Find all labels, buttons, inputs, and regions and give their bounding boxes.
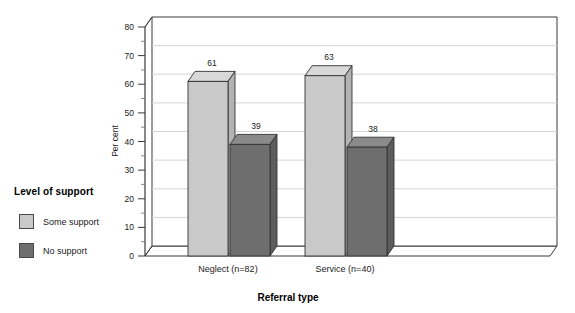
bar-value-label-service-none: 38 [368, 124, 378, 134]
y-tick-label-60: 60 [125, 79, 135, 89]
plot-top-depth-edge [145, 17, 152, 27]
y-tick-label-30: 30 [125, 165, 135, 175]
bar-top-face [347, 137, 394, 147]
bar-front-face [188, 81, 228, 256]
bar-top-face [188, 71, 235, 81]
bar-side-face [387, 137, 394, 256]
bar-top-face [305, 66, 352, 76]
y-tick-labels: 80 70 60 50 40 30 20 10 0 [125, 22, 135, 261]
y-tick-label-70: 70 [125, 51, 135, 61]
y-axis-title: Per cent [110, 125, 120, 157]
bar-top-face [230, 134, 277, 144]
legend-item-some-support[interactable]: Some support [19, 214, 99, 229]
bar-service-no-support[interactable] [347, 137, 394, 256]
bar-front-face [230, 144, 270, 256]
bar-value-label-neglect-some: 61 [207, 58, 217, 68]
x-axis-title: Referral type [257, 292, 319, 303]
y-tick-label-0: 0 [129, 251, 134, 261]
legend-label-some-support: Some support [43, 217, 99, 227]
bar-service-some-support[interactable] [305, 66, 352, 256]
y-axis [138, 27, 145, 256]
x-tick-label-service: Service (n=40) [316, 264, 375, 274]
legend-title: Level of support [14, 186, 93, 197]
bar-front-face [305, 76, 345, 256]
x-tick-label-neglect: Neglect (n=82) [198, 264, 257, 274]
legend-swatch-some-support [19, 214, 34, 229]
chart-canvas: 80 70 60 50 40 30 20 10 0 Per cent 61 [0, 0, 575, 313]
bar-value-label-neglect-none: 39 [251, 121, 261, 131]
bar-side-face [270, 134, 277, 256]
bar-chart-figure: 80 70 60 50 40 30 20 10 0 Per cent 61 [0, 0, 575, 313]
y-tick-label-80: 80 [125, 22, 135, 32]
y-tick-label-10: 10 [125, 222, 135, 232]
bar-neglect-some-support[interactable] [188, 71, 235, 256]
legend-label-no-support: No support [43, 246, 87, 256]
bar-front-face [347, 147, 387, 256]
y-tick-label-40: 40 [125, 137, 135, 147]
bar-value-label-service-some: 63 [324, 52, 334, 62]
y-tick-label-20: 20 [125, 194, 135, 204]
legend-item-no-support[interactable]: No support [19, 243, 87, 258]
legend-swatch-no-support [19, 243, 34, 258]
x-tick-labels: Neglect (n=82) Service (n=40) [198, 264, 374, 274]
y-tick-label-50: 50 [125, 108, 135, 118]
bar-neglect-no-support[interactable] [230, 134, 277, 256]
